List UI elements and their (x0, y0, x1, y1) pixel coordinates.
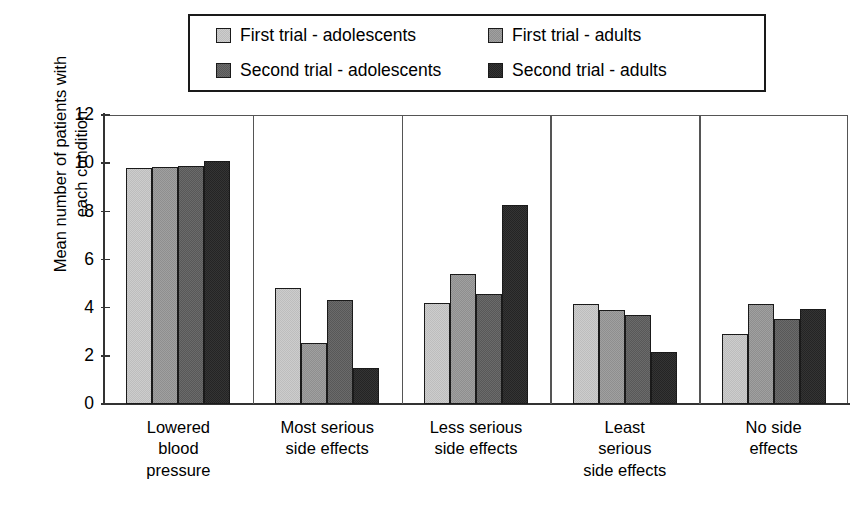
legend-swatch-first-trial-adults (488, 28, 503, 43)
bar (651, 352, 677, 404)
bars-layer (104, 115, 848, 404)
y-axis-tick-label: 12 (75, 106, 101, 124)
legend-item-second-trial-adolescents: Second trial - adolescents (216, 62, 488, 80)
legend-label-first-trial-adults: First trial - adults (512, 27, 641, 45)
legend-swatch-second-trial-adults (488, 63, 503, 78)
bar (152, 167, 178, 404)
legend-label-first-trial-adolescents: First trial - adolescents (240, 27, 416, 45)
legend-item-second-trial-adults: Second trial - adults (488, 62, 764, 80)
bar (476, 294, 502, 404)
x-axis-category-label: No side effects (699, 417, 848, 460)
legend-item-first-trial-adults: First trial - adults (488, 27, 764, 45)
x-axis-category-label: Lowered blood pressure (104, 417, 253, 481)
bar (178, 166, 204, 404)
legend-swatch-first-trial-adolescents (216, 28, 231, 43)
bar (599, 310, 625, 404)
x-axis-category-label: Least serious side effects (550, 417, 699, 481)
bar (301, 343, 327, 404)
bar (126, 168, 152, 404)
bar (450, 274, 476, 404)
y-axis-tick-label: 0 (84, 395, 101, 413)
legend-label-second-trial-adolescents: Second trial - adolescents (240, 62, 441, 80)
legend-label-second-trial-adults: Second trial - adults (512, 62, 667, 80)
y-axis-title-line1: Mean number of patients with (50, 14, 71, 314)
bar (800, 309, 826, 404)
chart-legend: First trial - adolescents First trial - … (188, 14, 766, 92)
legend-swatch-second-trial-adolescents (216, 63, 231, 78)
x-axis-category-label: Less serious side effects (402, 417, 551, 460)
bar (722, 334, 748, 404)
bar (625, 315, 651, 404)
bar (573, 304, 599, 404)
bar (275, 288, 301, 404)
bar (748, 304, 774, 404)
y-axis-tick-label: 6 (84, 251, 101, 269)
x-axis-category-label: Most serious side effects (253, 417, 402, 460)
y-axis-tick-label: 4 (84, 299, 101, 317)
bar (327, 300, 353, 404)
y-axis-tick-label: 10 (75, 154, 101, 172)
bar (204, 161, 230, 404)
bar (774, 319, 800, 404)
bar (353, 368, 379, 404)
y-axis-tick-label: 2 (84, 347, 101, 365)
legend-item-first-trial-adolescents: First trial - adolescents (216, 27, 488, 45)
bar (502, 205, 528, 404)
y-axis-tick-label: 8 (84, 203, 101, 221)
bar (424, 303, 450, 404)
